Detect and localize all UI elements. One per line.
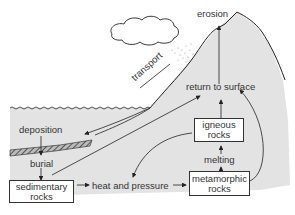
igneous-rocks-box: igneous rocks xyxy=(194,118,244,142)
igneous-line2: rocks xyxy=(195,130,243,140)
burial-label: burial xyxy=(30,159,53,169)
heat-and-pressure-label: heat and pressure xyxy=(92,181,169,191)
erosion-label: erosion xyxy=(197,9,228,19)
sedimentary-rocks-box: sedimentary rocks xyxy=(9,180,74,203)
metamorphic-line2: rocks xyxy=(190,184,249,194)
sedimentary-line2: rocks xyxy=(10,192,73,202)
cloud-icon xyxy=(111,16,179,45)
metamorphic-rocks-box: metamorphic rocks xyxy=(189,171,250,196)
melting-label: melting xyxy=(204,155,235,165)
deposition-label: deposition xyxy=(19,125,62,135)
return-to-surface-label: return to surface xyxy=(186,82,255,92)
rain-icon xyxy=(171,43,193,62)
